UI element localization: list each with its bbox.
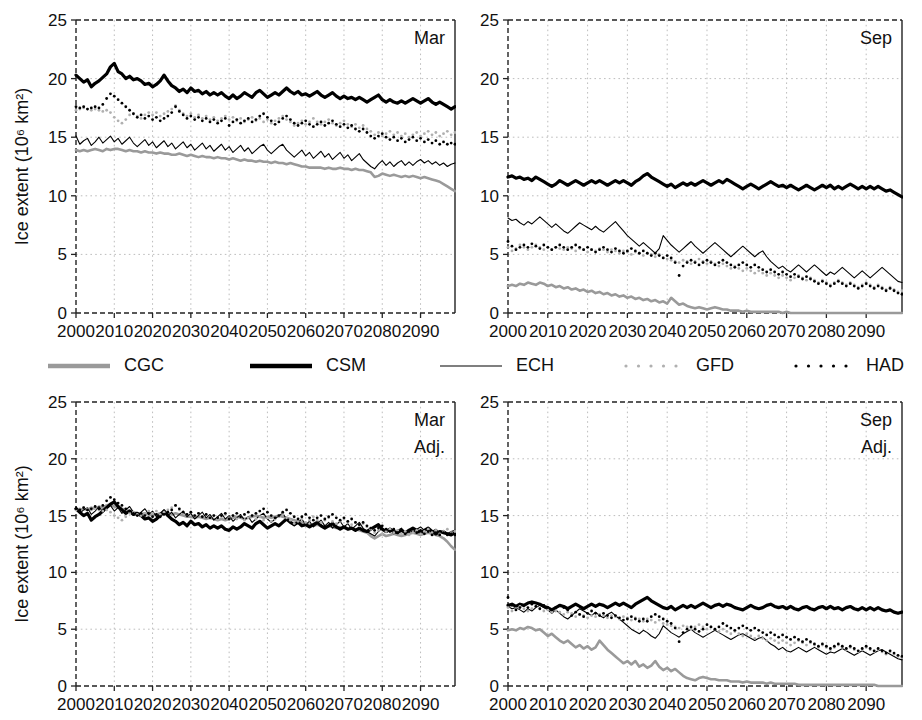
data-point: [861, 285, 864, 288]
legend-item-gfd[interactable]: GFD: [624, 355, 734, 375]
data-point: [343, 123, 346, 126]
data-point: [558, 611, 561, 614]
data-point: [316, 516, 319, 519]
data-point: [358, 130, 361, 133]
data-point: [554, 606, 557, 609]
data-point: [75, 507, 78, 510]
data-point: [155, 510, 158, 513]
data-point: [769, 272, 772, 275]
data-point: [797, 275, 800, 278]
data-point: [124, 118, 127, 121]
data-point: [674, 627, 677, 630]
data-point: [411, 136, 414, 139]
data-point: [377, 527, 380, 530]
data-point: [369, 130, 372, 133]
data-point: [343, 516, 346, 519]
data-point: [658, 254, 661, 257]
data-point: [358, 523, 361, 526]
data-point: [304, 119, 307, 122]
legend-item-had[interactable]: HAD: [794, 355, 904, 375]
data-point: [761, 272, 764, 275]
data-point: [733, 629, 736, 632]
data-point: [262, 519, 265, 522]
data-point: [431, 142, 434, 145]
data-point: [278, 121, 281, 124]
data-point: [785, 641, 788, 644]
data-point: [542, 610, 545, 613]
clip-mask-right: [903, 386, 922, 720]
data-point: [446, 130, 449, 133]
data-point: [722, 628, 725, 631]
data-point: [136, 116, 139, 119]
data-point: [128, 510, 131, 513]
data-point: [331, 520, 334, 523]
data-point: [877, 647, 880, 650]
data-point: [239, 117, 242, 120]
data-point: [630, 619, 633, 622]
data-point: [427, 530, 430, 533]
data-point: [385, 132, 388, 135]
data-point: [714, 264, 717, 267]
data-point: [251, 121, 254, 124]
data-point: [586, 246, 589, 249]
data-point: [622, 615, 625, 618]
data-point: [829, 647, 832, 650]
x-tick-label: 2050: [249, 322, 287, 341]
data-point: [166, 110, 169, 113]
legend-item-ech[interactable]: ECH: [440, 355, 554, 375]
data-point: [369, 527, 372, 530]
data-point: [392, 528, 395, 531]
data-point: [861, 647, 864, 650]
data-point: [136, 514, 139, 517]
data-point: [857, 649, 860, 652]
x-tick-label: 2000: [489, 695, 527, 714]
data-point: [438, 135, 441, 138]
data-point: [415, 531, 418, 534]
data-point: [151, 118, 154, 121]
data-point: [566, 608, 569, 611]
data-point: [777, 641, 780, 644]
data-point: [682, 624, 685, 627]
data-point: [117, 502, 120, 505]
data-point: [785, 273, 788, 276]
data-point: [542, 244, 545, 247]
data-point: [151, 515, 154, 518]
data-point: [682, 259, 685, 262]
legend-marker: [674, 364, 677, 367]
data-point: [331, 119, 334, 122]
data-point: [216, 122, 219, 125]
data-point: [205, 117, 208, 120]
data-point: [431, 534, 434, 537]
data-point: [186, 513, 189, 516]
y-tick-label: 25: [48, 11, 67, 30]
data-point: [614, 247, 617, 250]
data-point: [220, 514, 223, 517]
data-point: [582, 248, 585, 251]
data-point: [523, 244, 526, 247]
data-point: [373, 529, 376, 532]
data-point: [109, 92, 112, 95]
x-tick-label: 2030: [172, 695, 210, 714]
data-point: [737, 264, 740, 267]
y-tick-label: 25: [48, 393, 67, 412]
data-point: [781, 633, 784, 636]
data-point: [186, 117, 189, 120]
data-point: [897, 654, 900, 657]
data-point: [753, 627, 756, 630]
data-point: [678, 261, 681, 264]
data-point: [159, 115, 162, 118]
data-point: [638, 252, 641, 255]
data-point: [527, 246, 530, 249]
data-point: [570, 614, 573, 617]
data-point: [205, 513, 208, 516]
y-tick-label: 0: [490, 677, 499, 696]
data-point: [124, 507, 127, 510]
x-tick-label: 2070: [325, 695, 363, 714]
data-point: [642, 254, 645, 257]
data-point: [232, 514, 235, 517]
legend-item-cgc[interactable]: CGC: [48, 355, 164, 375]
x-tick-label: 2010: [95, 322, 133, 341]
legend-item-csm[interactable]: CSM: [250, 355, 366, 375]
data-point: [124, 105, 127, 108]
data-point: [698, 264, 701, 267]
